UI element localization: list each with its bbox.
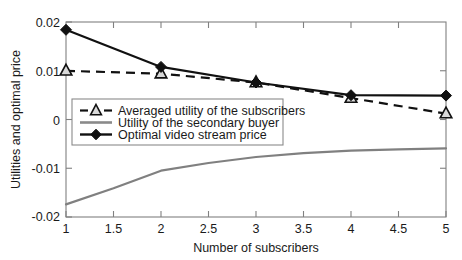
x-tick-label: 4 xyxy=(348,222,355,236)
chart-legend: Averaged utility of the subscribers Util… xyxy=(72,99,305,145)
x-tick-label: 2 xyxy=(158,222,165,236)
y-tick-marks-right xyxy=(440,71,446,169)
y-tick-label: 0.01 xyxy=(36,65,60,79)
y-tick-marks xyxy=(66,22,72,217)
x-tick-label: 5 xyxy=(443,222,450,236)
x-tick-label: 2.5 xyxy=(200,222,217,236)
y-tick-label: 0 xyxy=(53,114,60,128)
x-tick-label: 4.5 xyxy=(390,222,407,236)
x-tick-label: 3 xyxy=(253,222,260,236)
y-tick-labels: 0.02 0.01 0 -0.01 -0.02 xyxy=(32,16,61,224)
x-tick-label: 1 xyxy=(63,222,70,236)
chart-figure: 1 1.5 2 2.5 3 3.5 4 4.5 5 0.02 0.01 0 -0… xyxy=(0,0,462,260)
x-tick-marks xyxy=(66,211,446,217)
chart-plot-area: 1 1.5 2 2.5 3 3.5 4 4.5 5 0.02 0.01 0 -0… xyxy=(0,0,462,260)
x-axis-title: Number of subscribers xyxy=(193,241,319,255)
y-axis-title: Utilities and optimal price xyxy=(9,50,23,189)
x-tick-marks-top xyxy=(114,22,399,28)
y-tick-label: -0.02 xyxy=(32,210,61,224)
legend-label: Optimal video stream price xyxy=(118,128,267,142)
y-tick-label: -0.01 xyxy=(32,162,61,176)
markers-optimal-price xyxy=(61,24,452,101)
y-tick-label: 0.02 xyxy=(36,16,60,30)
x-tick-label: 3.5 xyxy=(295,222,312,236)
x-tick-labels: 1 1.5 2 2.5 3 3.5 4 4.5 5 xyxy=(63,222,450,236)
x-tick-label: 1.5 xyxy=(105,222,122,236)
series-line-utility-secondary-buyer xyxy=(66,148,446,204)
